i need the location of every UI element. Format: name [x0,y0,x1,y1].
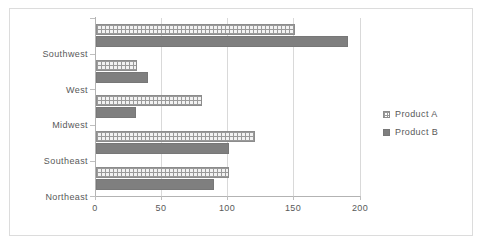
x-tick [360,196,361,200]
bar-product-a-northeast [96,167,229,178]
y-tick [90,18,95,19]
y-label-west: West [6,85,88,95]
gridline-200 [360,18,361,196]
legend-label-product-a: Product A [395,109,438,119]
x-tick-label-100: 100 [219,203,235,213]
chart-figure: Southwest West Midwest Southeast Northea… [0,0,483,246]
x-tick-label-50: 50 [156,203,167,213]
bar-product-a-west [96,60,137,71]
bar-product-a-midwest [96,95,202,106]
chart-legend: Product A Product B [383,106,469,142]
x-tick [227,196,228,200]
x-tick-label-150: 150 [285,203,301,213]
bar-product-a-southwest [96,24,295,35]
bar-product-b-southwest [96,36,348,47]
bar-product-b-southeast [96,143,229,154]
bar-product-b-west [96,72,148,83]
legend-swatch-icon-product-b [383,129,390,136]
x-tick [293,196,294,200]
x-axis-line [95,196,361,197]
x-tick [161,196,162,200]
legend-item-product-a: Product A [383,106,469,122]
legend-item-product-b: Product B [383,124,469,140]
bar-product-b-northeast [96,179,214,190]
y-tick [90,161,95,162]
y-axis-category-labels: Southwest West Midwest Southeast Northea… [0,18,88,196]
y-tick [90,89,95,90]
legend-swatch-icon-product-a [383,111,390,118]
y-label-northeast: Northeast [6,192,88,202]
bar-product-b-midwest [96,107,136,118]
y-tick [90,54,95,55]
legend-label-product-b: Product B [395,127,438,137]
x-tick-label-200: 200 [352,203,368,213]
x-tick [95,196,96,200]
y-tick [90,125,95,126]
y-label-southwest: Southwest [6,49,88,59]
y-label-southeast: Southeast [6,156,88,166]
bar-product-a-southeast [96,131,255,142]
x-tick-label-0: 0 [92,203,97,213]
x-axis-tick-labels: 0 50 100 150 200 [0,203,483,219]
y-label-midwest: Midwest [6,120,88,130]
